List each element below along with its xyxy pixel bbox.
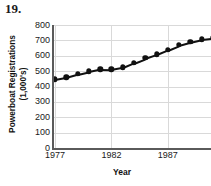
y-tick-500: 500 — [4, 67, 50, 76]
data-point — [176, 42, 181, 47]
data-point — [86, 69, 91, 74]
data-point — [64, 75, 69, 80]
y-tick-300: 300 — [4, 97, 50, 106]
data-point — [75, 71, 80, 76]
y-tick-700: 700 — [4, 36, 50, 45]
data-point — [165, 47, 170, 52]
data-point — [188, 39, 193, 44]
x-tick-1987: 1987 — [148, 150, 188, 160]
y-tick-800: 800 — [4, 21, 50, 30]
x-tick-1982: 1982 — [91, 150, 131, 160]
y-tick-100: 100 — [4, 128, 50, 137]
gridline-y-200 — [52, 117, 211, 118]
data-point — [143, 55, 148, 60]
figure-container: 19. Powerboat Registrations (1,000's) 01… — [0, 0, 211, 186]
data-point — [210, 35, 211, 40]
gridline-x-1987 — [168, 25, 169, 148]
gridline-x-1982 — [111, 25, 112, 148]
gridline-x-1977 — [55, 25, 56, 148]
y-tick-400: 400 — [4, 82, 50, 91]
gridline-y-300 — [52, 102, 211, 103]
data-point — [131, 60, 136, 65]
gridline-y-100 — [52, 133, 211, 134]
y-tick-200: 200 — [4, 113, 50, 122]
y-tick-600: 600 — [4, 51, 50, 60]
gridline-y-800 — [52, 25, 211, 26]
y-axis-line — [52, 25, 54, 149]
plot-area — [52, 25, 211, 148]
x-axis-label: Year — [52, 167, 192, 177]
data-point — [120, 65, 125, 70]
x-tick-1977: 1977 — [35, 150, 75, 160]
gridline-y-400 — [52, 87, 211, 88]
gridline-y-600 — [52, 56, 211, 57]
